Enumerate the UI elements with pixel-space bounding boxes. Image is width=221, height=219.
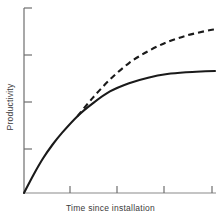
series-line-solid bbox=[24, 71, 215, 193]
y-axis-title: Productivity bbox=[5, 67, 15, 147]
chart-plot-area bbox=[0, 0, 221, 219]
productivity-chart: Productivity Time since installation bbox=[0, 0, 221, 219]
x-axis-title: Time since installation bbox=[0, 203, 221, 213]
